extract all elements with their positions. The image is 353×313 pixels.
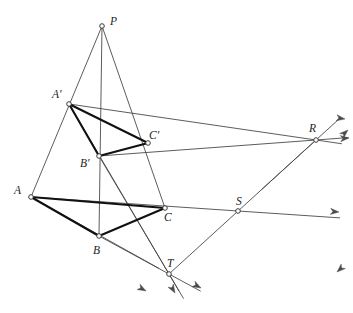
vertex-label-B: B	[93, 245, 100, 257]
vertex-marker-Bp	[97, 154, 102, 159]
vertex-label-S: S	[236, 196, 242, 208]
line-R-through-S-down	[262, 140, 316, 189]
figure-canvas	[0, 0, 353, 313]
vertex-marker-B	[97, 234, 102, 239]
ray-P-through-Bp-to-B	[99, 26, 102, 236]
vertex-label-P: P	[110, 16, 117, 28]
geometry-figure: PA′B′C′ABCRST	[0, 0, 353, 313]
vertex-marker-A	[29, 195, 34, 200]
segment-A-B	[31, 197, 99, 236]
ray-P-through-Ap-to-A	[31, 26, 102, 197]
vertex-label-Bp: B′	[80, 158, 90, 170]
vertex-marker-S	[236, 209, 241, 214]
vertex-marker-T	[167, 272, 172, 277]
arrowhead-bottom-left	[137, 284, 147, 294]
arrowhead-lower-right	[335, 264, 345, 274]
segment-A-C	[31, 197, 165, 208]
vertex-label-Cp: C′	[149, 130, 159, 142]
bold-lines-layer	[31, 104, 165, 236]
vertex-label-C: C	[164, 212, 172, 224]
vertex-markers-layer	[29, 24, 319, 277]
vertex-label-A: A	[14, 185, 21, 197]
arrowhead-right-middle	[330, 208, 339, 215]
vertex-marker-R	[314, 138, 319, 143]
vertex-marker-C	[163, 206, 168, 211]
vertex-label-T: T	[167, 258, 173, 270]
vertex-marker-P	[100, 24, 105, 29]
vertex-label-R: R	[309, 123, 316, 135]
vertex-label-Ap: A′	[52, 89, 62, 101]
vertex-marker-Ap	[67, 102, 72, 107]
